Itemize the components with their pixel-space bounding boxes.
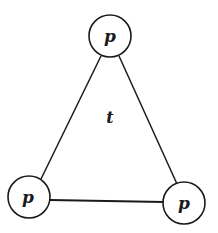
node-bottom-left: p <box>8 176 50 218</box>
edge-top-bottom-left <box>41 56 101 179</box>
node-label: p <box>178 193 190 213</box>
edge-bottom-left-bottom-right <box>50 200 164 202</box>
triangle-diagram: p p p t <box>0 0 218 233</box>
edge-top-bottom-right <box>119 56 177 184</box>
node-label: p <box>22 187 34 207</box>
node-top: p <box>89 15 131 57</box>
center-label: t <box>106 108 114 127</box>
node-bottom-right: p <box>163 182 205 224</box>
node-label: p <box>104 26 116 46</box>
